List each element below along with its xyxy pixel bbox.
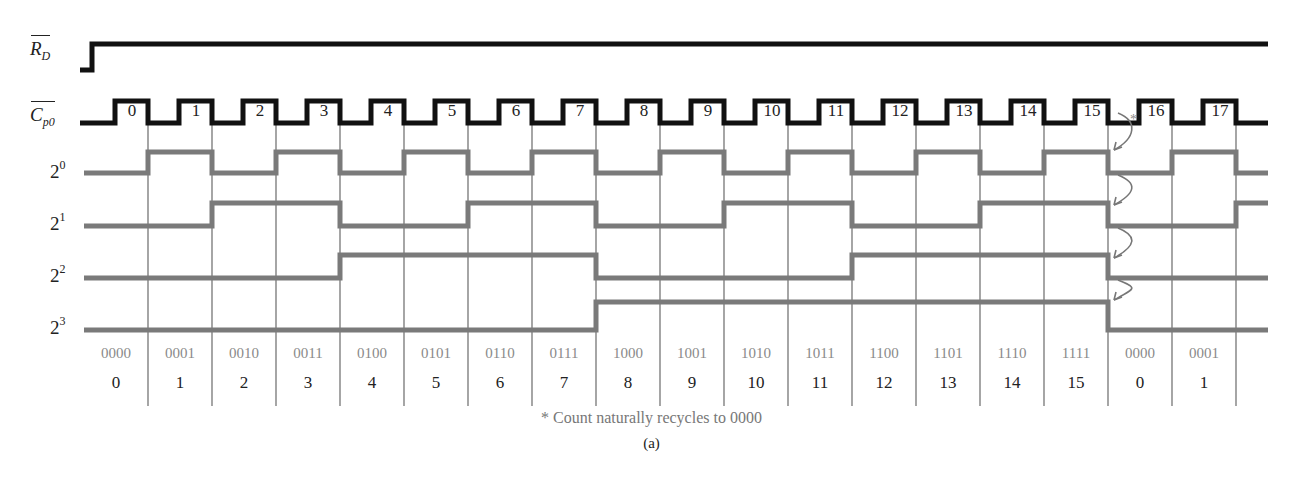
reset-waveform (80, 44, 1268, 70)
clock-pulse-number: 7 (565, 101, 595, 121)
state-binary: 0000 (84, 345, 148, 362)
state-binary: 1110 (980, 345, 1044, 362)
clock-pulse-number: 14 (1013, 101, 1043, 121)
state-binary: 1111 (1044, 345, 1108, 362)
clock-pulse-number: 15 (1077, 101, 1107, 121)
clock-label-sub: p0 (43, 115, 55, 129)
q2-base: 2 (50, 265, 60, 286)
q3-label: 23 (50, 316, 66, 339)
clock-pulse-number: 3 (309, 101, 339, 121)
q1-label: 21 (50, 212, 66, 235)
clock-pulse-number: 11 (821, 101, 851, 121)
clock-pulse-number: 8 (629, 101, 659, 121)
clock-pulse-number: 2 (245, 101, 275, 121)
clock-pulse-number: 9 (693, 101, 723, 121)
clock-pulse-number: 0 (117, 101, 147, 121)
state-binary: 0111 (532, 345, 596, 362)
clock-pulse-number: 12 (885, 101, 915, 121)
state-decimal: 15 (1044, 373, 1108, 393)
clock-label: Cp0 (30, 104, 55, 130)
clock-pulse-number: 16 (1141, 101, 1171, 121)
clock-pulse-number: 13 (949, 101, 979, 121)
state-binary: 0001 (148, 345, 212, 362)
state-binary: 0101 (404, 345, 468, 362)
state-binary: 0011 (276, 345, 340, 362)
q3-base: 2 (50, 317, 60, 338)
state-decimal: 0 (84, 373, 148, 393)
q3-waveform (84, 302, 1268, 330)
q0-base: 2 (50, 161, 60, 182)
q2-label: 22 (50, 264, 66, 287)
state-binary: 1100 (852, 345, 916, 362)
state-decimal: 0 (1108, 373, 1172, 393)
state-binary: 1010 (724, 345, 788, 362)
ripple-arrows (1114, 113, 1132, 300)
state-decimal: 8 (596, 373, 660, 393)
asterisk-marker: * (1130, 112, 1137, 127)
reset-label-main: R (30, 38, 42, 59)
figure-caption: (a) (0, 435, 1303, 452)
q0-label: 20 (50, 160, 66, 183)
q2-waveform (84, 255, 1268, 278)
state-binary: 1101 (916, 345, 980, 362)
state-binary: 0000 (1108, 345, 1172, 362)
state-decimal: 4 (340, 373, 404, 393)
q1-exp: 1 (60, 210, 66, 224)
state-decimal: 12 (852, 373, 916, 393)
state-binary: 1001 (660, 345, 724, 362)
state-decimal: 14 (980, 373, 1044, 393)
footnote: * Count naturally recycles to 0000 (0, 409, 1303, 427)
state-binary: 0100 (340, 345, 404, 362)
state-decimal: 1 (1172, 373, 1236, 393)
state-decimal: 3 (276, 373, 340, 393)
state-decimal: 5 (404, 373, 468, 393)
q0-exp: 0 (60, 158, 66, 172)
state-decimal: 13 (916, 373, 980, 393)
clock-pulse-number: 6 (501, 101, 531, 121)
state-binary: 1000 (596, 345, 660, 362)
state-decimal: 6 (468, 373, 532, 393)
q3-exp: 3 (60, 314, 66, 328)
q1-base: 2 (50, 213, 60, 234)
clock-pulse-number: 10 (757, 101, 787, 121)
state-decimal: 1 (148, 373, 212, 393)
state-decimal: 9 (660, 373, 724, 393)
clock-edge-gridlines (148, 123, 1236, 406)
state-decimal: 2 (212, 373, 276, 393)
reset-label: RD (30, 38, 50, 64)
reset-label-sub: D (42, 49, 51, 63)
state-decimal: 7 (532, 373, 596, 393)
q0-waveform (84, 152, 1268, 173)
clock-label-main: C (30, 104, 43, 125)
state-binary: 0010 (212, 345, 276, 362)
state-decimal: 10 (724, 373, 788, 393)
state-binary: 1011 (788, 345, 852, 362)
q2-exp: 2 (60, 262, 66, 276)
clock-pulse-number: 5 (437, 101, 467, 121)
state-binary: 0001 (1172, 345, 1236, 362)
clock-pulse-number: 17 (1205, 101, 1235, 121)
state-decimal: 11 (788, 373, 852, 393)
q1-waveform (84, 203, 1268, 226)
clock-pulse-number: 1 (181, 101, 211, 121)
clock-pulse-number: 4 (373, 101, 403, 121)
state-binary: 0110 (468, 345, 532, 362)
